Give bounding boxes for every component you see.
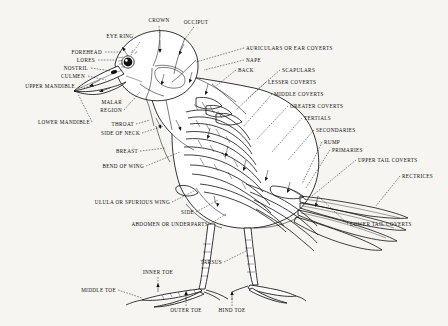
label-side-of-neck: SIDE OF NECK (101, 130, 140, 136)
label-eye-ring: EYE RING (107, 33, 134, 39)
label-lower-mandible: LOWER MANDIBLE (38, 119, 90, 125)
leader-lower-mandible (78, 94, 92, 122)
label-throat: THROAT (111, 121, 134, 127)
label-secondaries: SECONDARIES (316, 127, 356, 133)
leader-rectrices (376, 176, 400, 206)
breast-contour (156, 126, 170, 162)
label-side: SIDE (181, 209, 194, 215)
bird-topography-diagram: CROWN OCCIPUT EYE RING FOREHEAD LORES NO… (0, 0, 448, 326)
label-outer-toe: OUTER TOE (170, 307, 202, 313)
eye (124, 58, 133, 67)
label-ulula: ULULA OR SPURIOUS WING (95, 199, 170, 205)
label-breast: BREAST (116, 148, 138, 154)
label-culmen: CULMEN (61, 73, 85, 79)
label-tertials: TERTIALS (304, 115, 331, 121)
label-scapulars: SCAPULARS (282, 67, 315, 73)
label-back: BACK (238, 67, 254, 73)
label-tarsus: TARSUS (200, 259, 222, 265)
label-abdomen: ABDOMEN OR UNDERPARTS (131, 221, 208, 227)
label-rectrices: RECTRICES (402, 173, 433, 179)
label-crown: CROWN (148, 17, 169, 23)
label-middle-coverts: MIDDLE COVERTS (274, 91, 324, 97)
label-lores: LORES (77, 57, 95, 63)
label-malar-region-line2: REGION (100, 107, 122, 113)
label-upper-mandible: UPPER MANDIBLE (25, 83, 75, 89)
label-rump: RUMP (324, 139, 340, 145)
eye-highlight (125, 59, 128, 62)
leader-middle-toe (118, 290, 142, 298)
label-greater-coverts: GREATER COVERTS (290, 103, 343, 109)
front-leg-tarsus (199, 224, 215, 289)
rear-foot (232, 285, 306, 303)
label-primaries: PRIMARIES (332, 147, 363, 153)
leader-tarsus (224, 250, 248, 262)
label-nostril: NOSTRIL (64, 65, 88, 71)
leader-breast (140, 148, 166, 151)
label-forehead: FOREHEAD (72, 49, 102, 55)
label-nape: NAPE (246, 57, 261, 63)
label-inner-toe: INNER TOE (143, 269, 173, 275)
rear-leg-tarsus (244, 228, 258, 285)
leader-occiput (184, 27, 194, 40)
label-upper-tail-coverts: UPPER TAIL COVERTS (358, 157, 417, 163)
label-middle-toe: MIDDLE TOE (81, 287, 116, 293)
label-bend-of-wing: BEND OF WING (102, 163, 144, 169)
label-lower-tail-coverts: LOWER TAIL COVERTS (350, 221, 412, 227)
label-lesser-coverts: LESSER COVERTS (268, 79, 316, 85)
label-occiput: OCCIPUT (184, 19, 209, 25)
label-malar-region-line1: MALAR (102, 99, 123, 105)
label-hind-toe: HIND TOE (219, 307, 246, 313)
leader-malar (124, 92, 140, 110)
rectrices-feather-1 (300, 196, 408, 218)
leader-throat (136, 120, 150, 124)
leader-auriculars (196, 48, 244, 62)
label-auriculars: AURICULARS OR EAR COVERTS (246, 45, 333, 51)
